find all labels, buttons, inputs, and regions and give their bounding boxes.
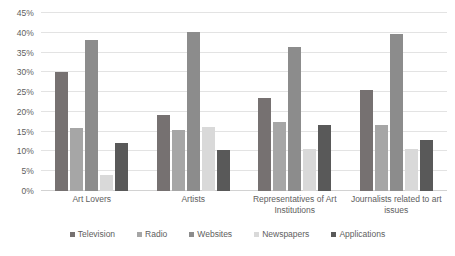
bar-applications[interactable]	[115, 143, 128, 191]
x-axis-category-label: Representatives of Art Institutions	[244, 194, 346, 226]
bar-radio[interactable]	[375, 125, 388, 191]
legend-item[interactable]: Radio	[137, 230, 167, 239]
bar-applications[interactable]	[420, 140, 433, 191]
bar-group	[143, 13, 245, 191]
y-axis-tick-label: 10%	[17, 147, 34, 156]
legend-swatch-icon	[70, 232, 75, 237]
bar-websites[interactable]	[288, 47, 301, 191]
bar-newspapers[interactable]	[405, 149, 418, 191]
bar-television[interactable]	[258, 98, 271, 191]
bar-websites[interactable]	[187, 32, 200, 191]
x-axis-category-labels: Art LoversArtistsRepresentatives of Art …	[41, 194, 447, 226]
y-axis-tick-label: 0%	[22, 187, 35, 196]
x-axis-category-label: Art Lovers	[41, 194, 143, 226]
legend-label: Radio	[145, 230, 167, 239]
bar-television[interactable]	[55, 72, 68, 191]
bar-websites[interactable]	[390, 34, 403, 191]
bar-newspapers[interactable]	[100, 175, 113, 191]
legend-swatch-icon	[137, 232, 142, 237]
y-axis-tick-label: 20%	[17, 108, 34, 117]
legend-label: Websites	[197, 230, 232, 239]
y-axis-tick-label: 40%	[17, 29, 34, 38]
bar-websites[interactable]	[85, 40, 98, 191]
bar-television[interactable]	[157, 115, 170, 191]
legend-item[interactable]: Television	[70, 230, 115, 239]
x-axis-category-label: Artists	[143, 194, 245, 226]
legend-item[interactable]: Websites	[189, 230, 232, 239]
bar-radio[interactable]	[172, 130, 185, 191]
bar-group	[346, 13, 448, 191]
plot-wrapper: 0%5%10%15%20%25%30%35%40%45%	[0, 0, 455, 200]
bar-groups	[41, 13, 447, 191]
y-axis: 0%5%10%15%20%25%30%35%40%45%	[0, 13, 38, 191]
bar-chart: 0%5%10%15%20%25%30%35%40%45% Art LoversA…	[0, 0, 455, 256]
bar-radio[interactable]	[70, 128, 83, 191]
bar-applications[interactable]	[318, 125, 331, 191]
bar-television[interactable]	[360, 90, 373, 191]
bar-group	[41, 13, 143, 191]
legend: TelevisionRadioWebsitesNewspapersApplica…	[0, 230, 455, 239]
y-axis-tick-label: 25%	[17, 88, 34, 97]
legend-label: Applications	[339, 230, 385, 239]
legend-label: Television	[78, 230, 115, 239]
legend-item[interactable]: Applications	[331, 230, 385, 239]
y-axis-tick-label: 45%	[17, 9, 34, 18]
x-axis-category-label: Journalists related to art issues	[346, 194, 448, 226]
legend-label: Newspapers	[262, 230, 309, 239]
bar-applications[interactable]	[217, 150, 230, 191]
plot-area	[41, 13, 447, 191]
legend-swatch-icon	[254, 232, 259, 237]
bar-radio[interactable]	[273, 122, 286, 191]
y-axis-tick-label: 5%	[22, 167, 35, 176]
legend-swatch-icon	[331, 232, 336, 237]
y-axis-tick-label: 15%	[17, 127, 34, 136]
legend-item[interactable]: Newspapers	[254, 230, 309, 239]
y-axis-tick-label: 35%	[17, 48, 34, 57]
legend-swatch-icon	[189, 232, 194, 237]
bar-group	[244, 13, 346, 191]
bar-newspapers[interactable]	[202, 127, 215, 191]
y-axis-tick-label: 30%	[17, 68, 34, 77]
bar-newspapers[interactable]	[303, 149, 316, 191]
